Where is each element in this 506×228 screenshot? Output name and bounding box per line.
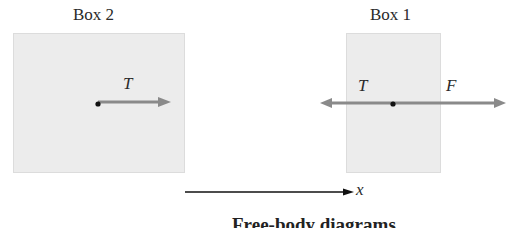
diagram-arrows <box>0 0 506 228</box>
box1-tension-arrow <box>320 98 393 108</box>
box2-point <box>95 101 100 106</box>
x-axis-arrow <box>185 189 354 196</box>
figure-caption: Free-body diagrams <box>232 214 396 228</box>
box2-tension-arrow <box>98 97 171 107</box>
box1-force-arrow <box>393 98 506 108</box>
box2-tension-label: T <box>123 74 132 94</box>
box1-point <box>390 101 395 106</box>
box1-force-label: F <box>446 76 456 96</box>
x-axis-label: x <box>356 180 364 200</box>
box1-tension-label: T <box>358 76 367 96</box>
